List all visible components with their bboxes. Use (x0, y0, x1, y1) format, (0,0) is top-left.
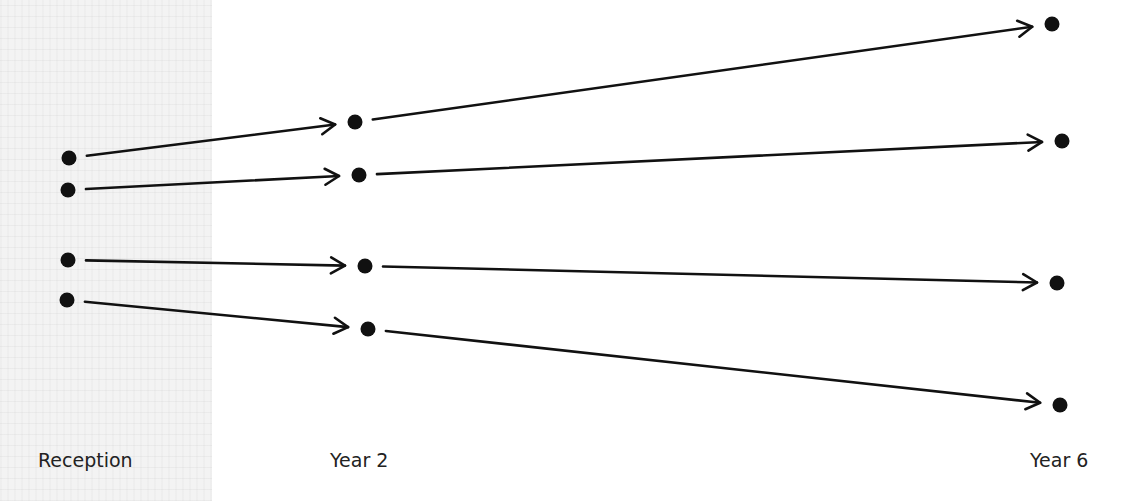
stage-label-reception: Reception (38, 449, 133, 471)
dot (60, 293, 75, 308)
arrow-line (86, 176, 339, 189)
dot (348, 115, 363, 130)
dot (358, 259, 373, 274)
dot (361, 322, 376, 337)
progress-diagram (0, 0, 1147, 501)
arrow-line (383, 266, 1037, 282)
arrow-line (86, 260, 345, 265)
dot (62, 151, 77, 166)
stage-label-year-6: Year 6 (1030, 449, 1088, 471)
arrow-line (373, 27, 1032, 120)
arrow-line (386, 331, 1040, 403)
dot (61, 253, 76, 268)
dot (1055, 134, 1070, 149)
arrow-line (85, 302, 348, 327)
dot (1053, 398, 1068, 413)
dot (1050, 276, 1065, 291)
dot (352, 168, 367, 183)
dot (61, 183, 76, 198)
stage-label-year-2: Year 2 (330, 449, 388, 471)
dot (1045, 17, 1060, 32)
arrow-line (87, 124, 335, 155)
arrow-line (377, 142, 1042, 174)
